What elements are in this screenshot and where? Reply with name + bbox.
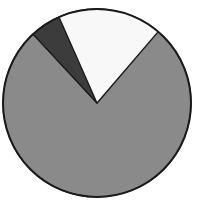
pie-chart [0, 0, 200, 208]
